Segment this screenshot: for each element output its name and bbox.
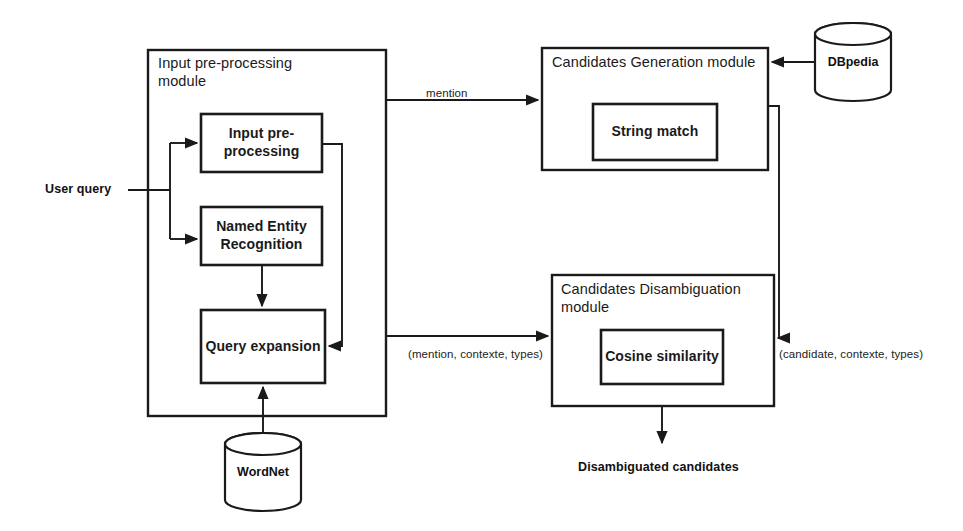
label-user-query: User query bbox=[45, 182, 111, 198]
diagram-canvas: Input pre-processing module Candidates G… bbox=[0, 0, 963, 531]
datastore-label-dbpedia: DBpedia bbox=[815, 55, 891, 71]
process-label-string-match: String match bbox=[593, 104, 717, 160]
module-caption-input-preprocessing: Input pre-processing module bbox=[158, 54, 368, 91]
process-label-query-expansion: Query expansion bbox=[201, 310, 325, 383]
module-caption-candidates-generation: Candidates Generation module bbox=[552, 53, 767, 71]
edge-label-mention: mention bbox=[426, 86, 468, 100]
module-caption-candidates-disambiguation: Candidates Disambiguation module bbox=[561, 280, 771, 317]
process-label-cosine-similarity: Cosine similarity bbox=[601, 330, 723, 384]
process-label-named-entity-recognition: Named Entity Recognition bbox=[201, 207, 322, 265]
label-disambiguated-candidates: Disambiguated candidates bbox=[578, 460, 739, 476]
edge-label-candidate-context-types: (candidate, contexte, types) bbox=[779, 347, 923, 361]
diagram-vector-layer bbox=[0, 0, 963, 531]
datastore-label-wordnet: WordNet bbox=[225, 465, 301, 481]
edge-label-mention-context-types: (mention, contexte, types) bbox=[408, 347, 543, 361]
process-label-input-pre-processing: Input pre- processing bbox=[201, 114, 322, 172]
